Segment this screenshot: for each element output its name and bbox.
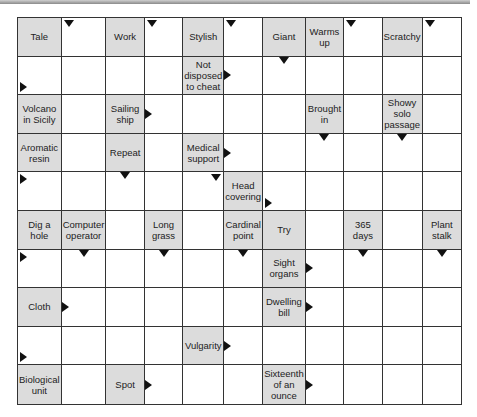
answer-cell[interactable] (263, 95, 306, 134)
clue-cardinal-point: Cardinal point (224, 211, 263, 250)
clue-spot: Spot (106, 365, 144, 404)
answer-cell[interactable] (62, 172, 107, 211)
down-arrow-icon (397, 134, 407, 141)
answer-cell[interactable] (423, 95, 461, 134)
answer-cell[interactable] (344, 365, 382, 404)
answer-cell[interactable] (18, 327, 62, 366)
right-arrow-icon (224, 148, 231, 158)
answer-cell[interactable] (306, 172, 344, 211)
clue-sight-organs: Sight organs (263, 250, 306, 289)
clue-volcano-in-sicily: Volcano in Sicily (18, 95, 62, 134)
answer-cell[interactable] (306, 327, 344, 366)
answer-cell[interactable] (183, 365, 224, 404)
answer-cell[interactable] (423, 134, 461, 173)
answer-cell[interactable] (344, 327, 382, 366)
right-arrow-icon (224, 341, 231, 351)
answer-cell[interactable] (423, 365, 461, 404)
answer-cell[interactable] (263, 172, 306, 211)
answer-cell[interactable] (18, 172, 62, 211)
answer-cell[interactable] (306, 211, 344, 250)
answer-cell[interactable] (423, 327, 461, 366)
answer-cell[interactable] (62, 365, 107, 404)
answer-cell[interactable] (183, 172, 224, 211)
answer-cell[interactable] (62, 57, 107, 96)
down-arrow-icon (358, 250, 368, 257)
answer-cell[interactable] (224, 95, 263, 134)
answer-cell[interactable] (106, 250, 144, 289)
answer-cell[interactable] (344, 134, 382, 173)
answer-cell[interactable] (18, 250, 62, 289)
answer-cell[interactable] (106, 327, 144, 366)
clue-text: Sailing ship (107, 103, 142, 125)
answer-cell[interactable] (263, 327, 306, 366)
answer-cell[interactable] (145, 327, 183, 366)
answer-cell[interactable] (383, 211, 423, 250)
answer-cell[interactable] (423, 288, 461, 327)
clue-aromatic-resin: Aromatic resin (18, 134, 62, 173)
answer-cell[interactable] (183, 95, 224, 134)
answer-cell[interactable] (383, 327, 423, 366)
answer-cell[interactable] (423, 57, 461, 96)
window-top-bar (0, 0, 470, 4)
clue-dwelling-bill: Dwelling bill (263, 288, 306, 327)
answer-cell[interactable] (383, 172, 423, 211)
right-arrow-icon (20, 252, 27, 262)
answer-cell[interactable] (224, 288, 263, 327)
right-arrow-icon (62, 302, 69, 312)
answer-cell[interactable] (62, 134, 107, 173)
down-arrow-icon (279, 57, 289, 64)
answer-cell[interactable] (183, 211, 224, 250)
answer-cell[interactable] (62, 327, 107, 366)
answer-cell[interactable] (106, 211, 144, 250)
clue-medical-support: Medical support (183, 134, 224, 173)
answer-cell[interactable] (145, 288, 183, 327)
answer-cell[interactable] (263, 134, 306, 173)
clue-giant: Giant (263, 18, 306, 57)
clue-365-days: 365 days (344, 211, 382, 250)
answer-cell[interactable] (383, 365, 423, 404)
answer-cell[interactable] (423, 172, 461, 211)
clue-text: Dwelling bill (264, 296, 304, 318)
right-arrow-icon (265, 198, 272, 208)
answer-cell[interactable] (145, 134, 183, 173)
answer-cell[interactable] (344, 57, 382, 96)
clue-stylish: Stylish (183, 18, 224, 57)
answer-cell[interactable] (183, 250, 224, 289)
answer-cell[interactable] (106, 288, 144, 327)
answer-cell[interactable] (344, 172, 382, 211)
answer-cell[interactable] (383, 288, 423, 327)
clue-showy-solo-passage: Showy solo passage (383, 95, 423, 134)
answer-cell[interactable] (306, 57, 344, 96)
answer-cell[interactable] (344, 288, 382, 327)
answer-cell[interactable] (224, 365, 263, 404)
clue-text: Spot (115, 379, 135, 390)
down-arrow-icon (319, 134, 329, 141)
down-arrow-icon (238, 250, 248, 257)
answer-cell[interactable] (145, 18, 183, 57)
clue-text: Long grass (146, 219, 181, 241)
right-arrow-icon (145, 380, 152, 390)
clue-text: Plant stalk (424, 219, 460, 241)
clue-long-grass: Long grass (145, 211, 183, 250)
answer-cell[interactable] (183, 288, 224, 327)
answer-cell[interactable] (383, 250, 423, 289)
answer-cell[interactable] (423, 18, 461, 57)
clue-cloth: Cloth (18, 288, 62, 327)
clue-not-disposed-to-cheat: Not disposed to cheat (183, 57, 224, 96)
answer-cell[interactable] (62, 95, 107, 134)
down-arrow-icon (211, 174, 221, 181)
answer-cell[interactable] (383, 57, 423, 96)
answer-cell[interactable] (344, 18, 382, 57)
answer-cell[interactable] (62, 18, 107, 57)
answer-cell[interactable] (18, 57, 62, 96)
down-arrow-icon (147, 20, 157, 27)
right-arrow-icon (20, 82, 27, 92)
answer-cell[interactable] (145, 172, 183, 211)
clue-head-covering: Head covering (224, 172, 263, 211)
answer-cell[interactable] (106, 57, 144, 96)
answer-cell[interactable] (344, 95, 382, 134)
answer-cell[interactable] (145, 57, 183, 96)
answer-cell[interactable] (224, 18, 263, 57)
down-arrow-icon (346, 20, 356, 27)
right-arrow-icon (306, 380, 313, 390)
